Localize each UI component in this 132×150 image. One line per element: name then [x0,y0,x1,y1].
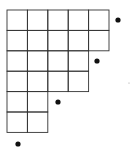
diagram-cell [7,30,27,50]
corner-dots [15,17,129,146]
diagram-cell [48,10,68,30]
diagram-cell [27,112,47,132]
young-diagram [0,0,132,150]
diagram-cell [7,10,27,30]
diagram-cell [7,92,27,112]
corner-dot [15,141,20,146]
diagram-cell [7,51,27,71]
diagram-cell [68,10,88,30]
diagram-cell [7,112,27,132]
corner-dot [115,17,120,22]
diagram-cell [48,51,68,71]
speck-mark [128,82,129,83]
diagram-cell [27,71,47,91]
diagram-cell [68,51,88,71]
corner-dot [55,99,60,104]
diagram-cell [27,10,47,30]
diagram-cell [7,71,27,91]
diagram-cell [68,71,88,91]
corner-dot [94,58,99,63]
diagram-cells [7,10,109,132]
diagram-cell [48,30,68,50]
diagram-cell [48,71,68,91]
diagram-cell [27,92,47,112]
diagram-cell [27,51,47,71]
diagram-cell [27,30,47,50]
diagram-cell [89,30,109,50]
diagram-cell [89,10,109,30]
diagram-cell [68,30,88,50]
